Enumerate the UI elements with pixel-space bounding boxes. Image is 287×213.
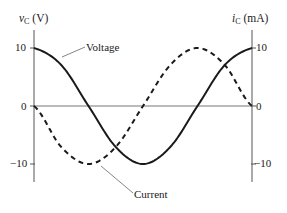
right-tick-label-neg10: −10 <box>254 157 271 169</box>
right-tick-label-10: 10 <box>256 41 267 53</box>
current-annotation: Current <box>134 188 168 200</box>
right-tick-label-0: 0 <box>256 100 262 112</box>
voltage-leader-line <box>62 47 85 57</box>
current-leader-line <box>101 166 133 193</box>
left-tick-label-neg10: −10 <box>10 157 27 169</box>
left-tick-label-10: 10 <box>15 41 26 53</box>
left-axis-unit: (V) <box>32 12 48 24</box>
right-axis-unit: (mA) <box>243 12 268 24</box>
right-axis-subscript: C <box>235 17 240 26</box>
voltage-annotation: Voltage <box>86 41 119 53</box>
chart-canvas <box>0 0 287 213</box>
right-axis-title: iC (mA) <box>232 12 268 28</box>
left-tick-label-0: 0 <box>21 100 27 112</box>
left-axis-subscript: C <box>24 17 29 26</box>
left-axis-title: vC (V) <box>19 12 48 28</box>
